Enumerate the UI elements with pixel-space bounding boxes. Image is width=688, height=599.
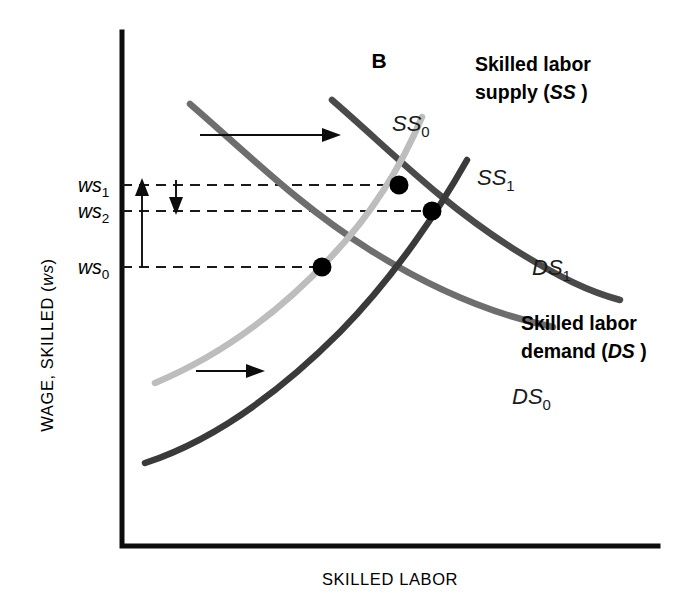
economics-diagram: ws1 ws2 ws0 SS0 SS1 DS1 DS0 Skilled labo… xyxy=(0,0,688,599)
figure-container: ws1 ws2 ws0 SS0 SS1 DS1 DS0 Skilled labo… xyxy=(0,0,688,599)
equilibrium-point-e1 xyxy=(390,176,409,195)
equilibrium-point-e2 xyxy=(423,202,442,221)
curve-label-ds1: DS1 xyxy=(532,255,571,284)
curve-ss0 xyxy=(155,117,422,383)
supply-callout-line2: supply (SS ) xyxy=(475,81,588,103)
demand-callout-line1: Skilled labor xyxy=(521,312,637,334)
x-axis-title: SKILLED LABOR xyxy=(322,570,458,588)
supply-callout-line1: Skilled labor xyxy=(475,53,591,75)
axis-lines xyxy=(122,32,658,546)
supply-shift-arrow xyxy=(196,364,265,378)
tick-label-ws2: ws2 xyxy=(78,200,109,226)
wage-increase-arrow xyxy=(135,178,149,267)
panel-letter-b: B xyxy=(371,49,386,72)
tick-label-ws1: ws1 xyxy=(78,174,109,200)
demand-callout-line2: demand (DS ) xyxy=(521,340,647,362)
tick-label-ws0: ws0 xyxy=(78,256,109,282)
curve-label-ds0: DS0 xyxy=(512,384,551,413)
curve-label-ss1: SS1 xyxy=(477,165,515,194)
equilibrium-point-e0 xyxy=(313,258,332,277)
y-axis-title: WAGE, SKILLED (ws) xyxy=(38,258,56,431)
